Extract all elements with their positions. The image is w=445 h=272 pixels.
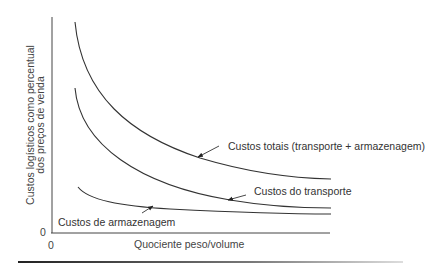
total-cost-curve — [75, 22, 331, 179]
y-zero-label: 0 — [40, 226, 46, 238]
total-arrow-icon — [198, 146, 219, 157]
y-axis-label-line2: dos preços de venda — [34, 76, 46, 174]
storage-cost-label: Custos de armazenagem — [58, 216, 176, 228]
x-axis-label: Quociente peso/volume — [134, 238, 244, 250]
bottom-rule — [18, 261, 403, 263]
transport-cost-label: Custos do transporte — [254, 185, 352, 197]
total-cost-label: Custos totais (transporte + armazenagem) — [228, 140, 425, 152]
cost-chart: Custos totais (transporte + armazenagem)… — [0, 0, 445, 272]
transport-arrow-icon — [228, 195, 246, 200]
x-zero-label: 0 — [48, 239, 54, 251]
